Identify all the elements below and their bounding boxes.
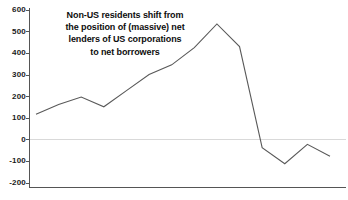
series-layer xyxy=(0,0,348,200)
chart-container: 600 500 400 300 200 100 0 -100 -200 Non-… xyxy=(0,0,348,200)
data-line-series-0 xyxy=(36,24,330,164)
